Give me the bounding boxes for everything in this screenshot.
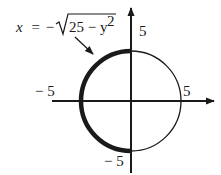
semicircle-diagram: x = − 25 − y 2 − 5 5 5 − 5: [0, 0, 221, 175]
y-pos-label: 5: [139, 23, 147, 39]
y-neg-label: − 5: [104, 153, 124, 169]
pointer-arrow-icon: [75, 37, 93, 54]
equation-lhs: x: [15, 19, 23, 35]
x-neg-label: − 5: [35, 83, 55, 99]
equation-minus: −: [46, 19, 54, 35]
equation-label: x = −: [15, 19, 54, 35]
x-pos-label: 5: [183, 83, 191, 99]
equation-exponent: 2: [107, 13, 115, 29]
equation-equals: =: [31, 19, 39, 35]
equation-radicand: 25 − y: [69, 19, 108, 35]
